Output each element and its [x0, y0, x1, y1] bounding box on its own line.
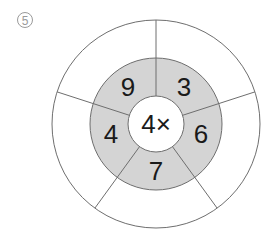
sector-value-upper-right: 3 — [177, 72, 191, 102]
sector-value-upper-left: 9 — [121, 72, 135, 102]
sector-value-left: 4 — [104, 119, 118, 149]
sector-value-bottom: 7 — [149, 156, 163, 186]
center-multiplier: 4× — [141, 109, 171, 139]
sector-value-right: 6 — [194, 119, 208, 149]
multiplication-wheel-diagram: 4× 3 6 7 4 9 — [0, 0, 278, 239]
